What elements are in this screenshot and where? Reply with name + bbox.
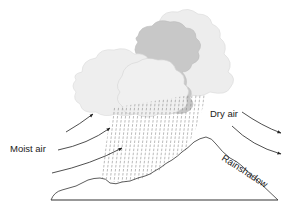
dry-air-label: Dry air xyxy=(210,108,238,119)
moist-air-arrow-2 xyxy=(58,128,110,150)
moist-air-arrows xyxy=(52,114,122,173)
moist-air-arrow-1 xyxy=(66,114,93,132)
dry-air-arrows xyxy=(232,112,281,154)
rainshadow-diagram xyxy=(0,0,291,224)
clouds xyxy=(73,9,234,117)
dry-air-arrow-1 xyxy=(242,112,281,133)
moist-air-label: Moist air xyxy=(10,143,46,154)
